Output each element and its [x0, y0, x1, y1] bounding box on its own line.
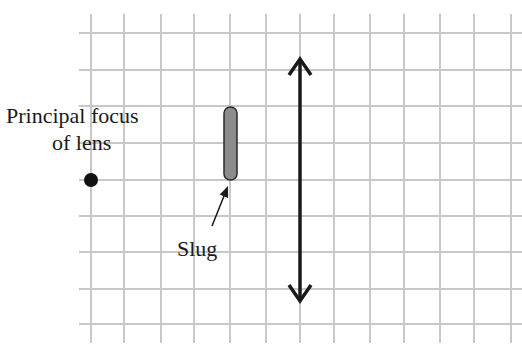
- principal-focus-dot: [84, 173, 98, 187]
- slug-rect: [224, 107, 237, 180]
- focus-dot: [84, 173, 98, 187]
- slug-label: Slug: [177, 236, 217, 262]
- slug-object: [224, 107, 237, 180]
- optics-diagram: [0, 0, 522, 359]
- slug-pointer-arrow: [212, 186, 228, 226]
- principal-focus-label-line1: Principal focus: [6, 103, 139, 129]
- pointer-arrowhead-icon: [220, 186, 228, 198]
- principal-focus-label-line2: of lens: [52, 130, 111, 156]
